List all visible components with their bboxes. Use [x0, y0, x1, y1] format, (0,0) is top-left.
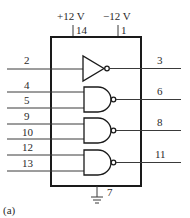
pin-8-label: 8	[157, 116, 163, 128]
positive-supply-label: +12 V	[57, 10, 85, 22]
pin-2-label: 2	[24, 54, 30, 66]
pin-12-label: 12	[22, 141, 33, 153]
nand-body-icon	[84, 150, 111, 175]
pin-10-label: 10	[22, 126, 34, 138]
nand-body-icon	[84, 118, 111, 143]
ground-icon	[91, 186, 103, 203]
figure-caption: (a)	[3, 204, 16, 217]
pin-7-label: 7	[107, 186, 113, 198]
pin-1-label: 1	[121, 24, 127, 36]
inverter-gate: 2 3	[7, 54, 181, 81]
pin-6-label: 6	[157, 85, 163, 97]
ic-schematic: +12 V −12 V 14 1 2 3 4 5 6 9 10 8	[0, 0, 190, 218]
nand-gate-3: 12 13 11	[7, 141, 181, 175]
pin-3-label: 3	[157, 54, 163, 66]
negative-supply-label: −12 V	[103, 10, 131, 22]
pin-4-label: 4	[24, 79, 30, 91]
pin-14-label: 14	[76, 24, 88, 36]
nand-body-icon	[84, 87, 111, 112]
inversion-bubble-icon	[111, 97, 116, 102]
inversion-bubble-icon	[111, 128, 116, 133]
nand-gate-1: 4 5 6	[7, 79, 181, 112]
pin-9-label: 9	[24, 110, 30, 122]
inversion-bubble-icon	[105, 66, 110, 71]
pin-11-label: 11	[155, 148, 166, 160]
nand-gate-2: 9 10 8	[7, 110, 181, 143]
pin-5-label: 5	[24, 94, 30, 106]
inversion-bubble-icon	[111, 160, 116, 165]
pin-13-label: 13	[22, 157, 34, 169]
inverter-triangle-icon	[83, 56, 104, 81]
